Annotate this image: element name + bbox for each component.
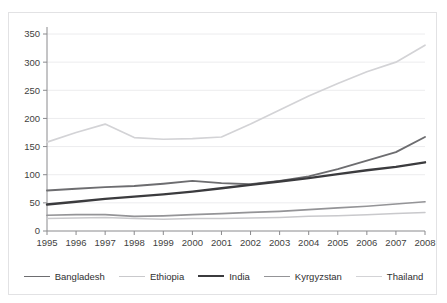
x-tick-label: 2006 — [356, 237, 377, 248]
line-chart-plot: 050100150200250300350 199519961997199819… — [9, 13, 438, 296]
chart-svg: 050100150200250300350 199519961997199819… — [9, 13, 438, 296]
x-tick-label: 2001 — [211, 237, 232, 248]
y-axis-tick-labels: 050100150200250300350 — [24, 28, 40, 236]
tickmarks-group — [43, 34, 425, 235]
x-tick-label: 2005 — [327, 237, 348, 248]
x-tick-label: 2000 — [182, 237, 203, 248]
legend-swatch-kyrgyzstan — [264, 276, 290, 277]
cropped-title-text — [19, 2, 439, 12]
y-tick-label: 250 — [24, 85, 40, 96]
axes-group — [47, 27, 425, 231]
legend-item-thailand[interactable]: Thailand — [356, 271, 423, 282]
legend-swatch-bangladesh — [24, 276, 50, 277]
x-tick-label: 1995 — [36, 237, 57, 248]
gridlines-group — [47, 34, 425, 203]
legend-item-kyrgyzstan[interactable]: Kyrgyzstan — [264, 271, 342, 282]
x-tick-label: 1997 — [95, 237, 116, 248]
x-tick-label: 2008 — [414, 237, 435, 248]
y-tick-label: 50 — [29, 197, 40, 208]
legend-label-thailand: Thailand — [387, 271, 423, 282]
x-tick-label: 2007 — [385, 237, 406, 248]
y-tick-label: 300 — [24, 57, 40, 68]
y-tick-label: 200 — [24, 113, 40, 124]
y-tick-label: 150 — [24, 141, 40, 152]
series-line-thailand — [47, 45, 425, 142]
x-tick-label: 1998 — [124, 237, 145, 248]
x-axis-tick-labels: 1995199619971998199920002001200220032004… — [36, 237, 435, 248]
legend-swatch-india — [198, 275, 224, 277]
legend-label-bangladesh: Bangladesh — [55, 271, 105, 282]
chart-figure: 050100150200250300350 199519961997199819… — [8, 12, 437, 295]
legend-item-bangladesh[interactable]: Bangladesh — [24, 271, 105, 282]
legend-label-kyrgyzstan: Kyrgyzstan — [295, 271, 342, 282]
legend-item-ethiopia[interactable]: Ethiopia — [119, 271, 184, 282]
chart-legend: BangladeshEthiopiaIndiaKyrgyzstanThailan… — [9, 265, 438, 287]
legend-swatch-thailand — [356, 276, 382, 277]
y-tick-label: 100 — [24, 169, 40, 180]
legend-swatch-ethiopia — [119, 276, 145, 277]
legend-label-ethiopia: Ethiopia — [150, 271, 184, 282]
x-tick-label: 1999 — [153, 237, 174, 248]
x-tick-label: 2003 — [269, 237, 290, 248]
series-lines-group — [47, 45, 425, 219]
y-tick-label: 0 — [35, 225, 40, 236]
legend-label-india: India — [229, 271, 250, 282]
x-tick-label: 1996 — [66, 237, 87, 248]
series-line-bangladesh — [47, 137, 425, 190]
x-tick-label: 2004 — [298, 237, 319, 248]
x-tick-label: 2002 — [240, 237, 261, 248]
y-tick-label: 350 — [24, 28, 40, 39]
legend-item-india[interactable]: India — [198, 271, 250, 282]
